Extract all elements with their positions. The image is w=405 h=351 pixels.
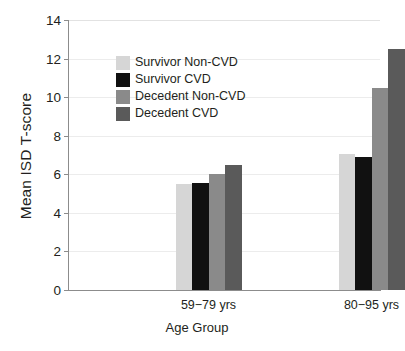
x-tick-label: 80−95 yrs — [344, 298, 399, 312]
y-tick-mark — [64, 213, 68, 214]
bar — [192, 183, 209, 290]
gridline — [69, 20, 380, 21]
legend-item: Survivor CVD — [116, 71, 245, 88]
bar — [209, 174, 226, 290]
bar — [225, 165, 242, 290]
y-tick-label: 0 — [53, 283, 61, 298]
legend-label: Survivor Non-CVD — [135, 56, 238, 69]
legend-item: Decedent CVD — [116, 105, 245, 122]
y-tick-mark — [64, 97, 68, 98]
y-tick-mark — [64, 59, 68, 60]
chart-legend: Survivor Non-CVDSurvivor CVDDecedent Non… — [116, 54, 245, 122]
gridline — [69, 136, 380, 137]
y-tick-label: 12 — [46, 51, 61, 66]
bar — [388, 49, 405, 290]
y-tick-label: 10 — [46, 90, 61, 105]
x-tick-label: 59−79 yrs — [181, 298, 236, 312]
bar — [372, 88, 389, 290]
legend-label: Decedent CVD — [135, 107, 218, 120]
bar — [176, 184, 193, 290]
y-tick-label: 4 — [53, 205, 61, 220]
legend-item: Survivor Non-CVD — [116, 54, 245, 71]
x-axis-line — [68, 290, 381, 291]
y-axis-line — [68, 20, 69, 291]
y-tick-label: 2 — [53, 244, 61, 259]
legend-label: Decedent Non-CVD — [135, 90, 245, 103]
y-axis-title: Mean ISD T-score — [17, 46, 35, 266]
y-tick-label: 6 — [53, 167, 61, 182]
legend-swatch-icon — [116, 56, 130, 70]
bar — [339, 154, 356, 290]
y-tick-mark — [64, 290, 68, 291]
y-tick-mark — [64, 174, 68, 175]
legend-item: Decedent Non-CVD — [116, 88, 245, 105]
y-tick-mark — [64, 136, 68, 137]
x-axis-title: Age Group — [0, 320, 394, 335]
legend-label: Survivor CVD — [135, 73, 211, 86]
y-tick-label: 8 — [53, 128, 61, 143]
y-tick-label: 14 — [46, 13, 61, 28]
y-tick-mark — [64, 20, 68, 21]
y-tick-mark — [64, 251, 68, 252]
bar — [355, 157, 372, 290]
legend-swatch-icon — [116, 73, 130, 87]
legend-swatch-icon — [116, 107, 130, 121]
legend-swatch-icon — [116, 90, 130, 104]
